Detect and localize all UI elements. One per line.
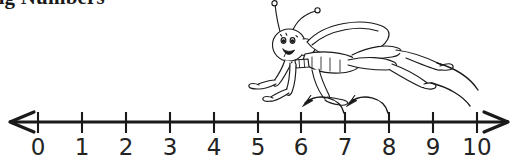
tick-label-4: 4 [207,136,222,159]
jump-arrowhead-at-7 [347,95,358,107]
tick-label-9: 9 [426,136,441,159]
tick-label-2: 2 [119,136,134,159]
tick-label-3: 3 [163,136,178,159]
tick-label-6: 6 [294,136,309,159]
tick-label-5: 5 [251,136,266,159]
jump-arcs [305,97,388,113]
tick-label-1: 1 [75,136,90,159]
tick-label-0: 0 [31,136,46,159]
tick-label-7: 7 [338,136,353,159]
jump-arrowhead-at-6 [303,95,314,107]
jump-arrowheads [303,95,358,107]
tick-label-8: 8 [382,136,397,159]
tick-label-10: 10 [462,136,491,159]
worksheet-page: ong Numbers [0,0,515,166]
